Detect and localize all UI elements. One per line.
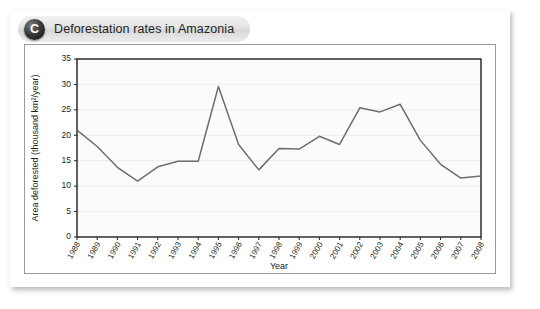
x-tick-label: 2008 — [470, 240, 487, 260]
panel-title-text: Deforestation rates in Amazonia — [54, 22, 234, 36]
y-tick-label: 35 — [62, 53, 72, 63]
y-tick-label: 30 — [62, 79, 72, 89]
x-tick-label: 1994 — [187, 240, 204, 260]
y-tick-label: 25 — [62, 104, 72, 114]
y-axis-title: Area deforested (thousand km²/year) — [30, 74, 40, 221]
x-tick-label: 2002 — [348, 240, 365, 260]
chart-frame: 05101520253035 1988198919901991199219931… — [24, 44, 496, 274]
x-tick-label: 1993 — [167, 240, 184, 260]
x-tick-label: 2001 — [328, 240, 345, 260]
x-tick-label: 1992 — [146, 240, 163, 260]
y-tick-label: 10 — [62, 180, 72, 190]
y-axis-tick-labels: 05101520253035 — [62, 53, 72, 241]
x-tick-label: 1998 — [268, 240, 285, 260]
x-tick-label: 1988 — [66, 240, 83, 260]
x-tick-label: 1989 — [86, 240, 103, 260]
x-tick-label: 1997 — [247, 240, 264, 260]
deforestation-line-chart: 05101520253035 1988198919901991199219931… — [25, 45, 495, 273]
x-tick-label: 2004 — [389, 240, 406, 260]
x-tick-label: 1996 — [227, 240, 244, 260]
x-tick-label: 2007 — [449, 240, 466, 260]
x-tick-label: 2006 — [429, 240, 446, 260]
x-axis-ticks — [77, 237, 481, 240]
y-tick-label: 0 — [66, 231, 71, 241]
x-tick-label: 1991 — [126, 240, 143, 260]
x-tick-label: 2000 — [308, 240, 325, 260]
y-tick-label: 5 — [66, 206, 71, 216]
x-axis-tick-labels: 1988198919901991199219931994199519961997… — [66, 240, 487, 260]
x-tick-label: 2003 — [369, 240, 386, 260]
x-tick-label: 1999 — [288, 240, 305, 260]
x-tick-label: 1995 — [207, 240, 224, 260]
x-tick-label: 2005 — [409, 240, 426, 260]
x-axis-title: Year — [270, 261, 288, 271]
y-tick-label: 20 — [62, 130, 72, 140]
y-tick-label: 15 — [62, 155, 72, 165]
figure-card: C Deforestation rates in Amazonia 051015… — [10, 10, 510, 287]
panel-title-bar: C Deforestation rates in Amazonia — [18, 16, 250, 42]
x-tick-label: 1990 — [106, 240, 123, 260]
panel-letter-badge: C — [24, 19, 45, 40]
